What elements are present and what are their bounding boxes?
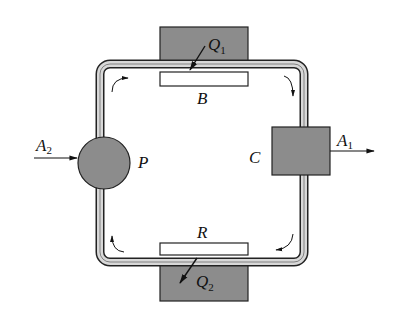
flow-arrow-top-right: [284, 76, 293, 96]
flow-arrow-bottom-left: [112, 236, 124, 252]
cycle-diagram: Q1 B R Q2 P C A2 A1: [0, 0, 398, 322]
component-p: [78, 137, 130, 189]
label-p: P: [137, 153, 148, 172]
component-c: [272, 127, 330, 175]
component-b: [160, 72, 248, 86]
label-b: B: [197, 89, 208, 108]
label-a1: A1: [336, 131, 353, 151]
label-a2: A2: [35, 136, 52, 156]
label-r: R: [196, 223, 208, 242]
flow-arrow-top-left: [112, 78, 128, 92]
component-r: [160, 243, 248, 255]
flow-arrow-bottom-right: [276, 234, 293, 250]
label-c: C: [249, 148, 261, 167]
